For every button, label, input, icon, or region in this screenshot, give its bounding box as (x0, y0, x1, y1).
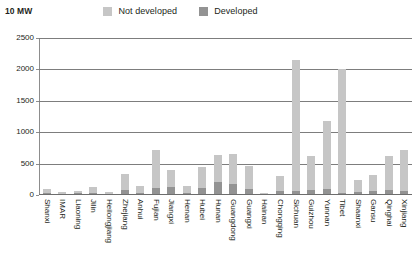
x-axis-tick-label: Henan (183, 199, 191, 223)
bar-slot (39, 38, 55, 195)
x-label-slot: Gansu (365, 197, 381, 275)
bar-stack[interactable] (198, 167, 206, 195)
bar-slot (272, 38, 288, 195)
x-axis-labels: ShanxiIMARLiaoningJilinHeilongjiangZheji… (39, 197, 412, 275)
bar-slot (179, 38, 195, 195)
x-axis-tick-label: Hainan (260, 199, 268, 224)
bar-segment-not-developed (152, 150, 160, 188)
bar-stack[interactable] (121, 174, 129, 195)
bar-slot (210, 38, 226, 195)
x-label-slot: Hainan (257, 197, 273, 275)
bar-slot (257, 38, 273, 195)
bar-slot (381, 38, 397, 195)
bar-segment-not-developed (276, 176, 284, 192)
bar-slot (241, 38, 257, 195)
y-axis-tick-label: 2000 (16, 65, 34, 73)
chart-legend: 10 MW Not developed Developed (0, 0, 419, 22)
bar-stack[interactable] (276, 176, 284, 195)
x-axis-tick-label: Yunnan (323, 199, 331, 226)
bar-slot (365, 38, 381, 195)
x-label-slot: Henan (179, 197, 195, 275)
bar-slot (334, 38, 350, 195)
bar-segment-not-developed (369, 175, 377, 191)
x-label-slot: Tibet (334, 197, 350, 275)
x-axis-tick-label: Heilongjiang (105, 199, 113, 243)
x-axis-tick-label: Qinghai (385, 199, 393, 227)
x-label-slot: Xinjiang (397, 197, 413, 275)
x-label-slot: Jiangxi (163, 197, 179, 275)
x-axis-tick-label: Shanxi (43, 199, 51, 223)
x-label-slot: Guangxi (241, 197, 257, 275)
bar-stack[interactable] (400, 150, 408, 195)
x-axis-tick-label: Gansu (369, 199, 377, 223)
legend-item-developed: Developed (199, 6, 257, 16)
y-axis-tick-label: 0 (30, 191, 34, 199)
bar-slot (397, 38, 413, 195)
x-axis-tick-label: Xinjiang (400, 199, 408, 227)
bar-slot (55, 38, 71, 195)
x-axis-line (39, 194, 412, 195)
bar-slot (226, 38, 242, 195)
bar-segment-not-developed (307, 156, 315, 190)
x-label-slot: Shanxi (39, 197, 55, 275)
x-label-slot: IMAR (55, 197, 71, 275)
bar-stack[interactable] (338, 69, 346, 195)
y-axis-tick (36, 195, 39, 196)
bar-slot (101, 38, 117, 195)
bar-slot (163, 38, 179, 195)
bar-segment-not-developed (198, 167, 206, 188)
x-label-slot: Hunan (210, 197, 226, 275)
bar-stack[interactable] (152, 150, 160, 195)
bar-segment-not-developed (385, 156, 393, 190)
x-axis-tick-label: Jilin (89, 199, 97, 213)
x-label-slot: Anhui (132, 197, 148, 275)
legend-label-not-developed: Not developed (118, 6, 177, 16)
legend-label-developed: Developed (214, 6, 257, 16)
x-axis-tick-label: Anhui (136, 199, 144, 219)
x-axis-tick-label: Hunan (214, 199, 222, 223)
bar-slot (148, 38, 164, 195)
bar-stack[interactable] (369, 175, 377, 195)
x-label-slot: Fujian (148, 197, 164, 275)
x-axis-tick-label: Guangdong (229, 199, 237, 241)
bar-stack[interactable] (292, 60, 300, 195)
x-label-slot: Shaanxi (350, 197, 366, 275)
legend-swatch-icon (103, 7, 112, 16)
y-axis-tick-label: 1500 (16, 97, 34, 105)
bar-segment-not-developed (338, 69, 346, 193)
x-label-slot: Qinghai (381, 197, 397, 275)
bar-stack[interactable] (323, 121, 331, 195)
bar-segment-not-developed (292, 60, 300, 191)
x-label-slot: Guangdong (226, 197, 242, 275)
bar-slot (288, 38, 304, 195)
bar-stack[interactable] (245, 166, 253, 195)
x-axis-tick-label: Zhejiang (121, 199, 129, 230)
bar-slot (117, 38, 133, 195)
bar-segment-not-developed (214, 155, 222, 182)
x-axis-tick-label: Tibet (338, 199, 346, 217)
x-axis-tick-label: Liaoning (74, 199, 82, 229)
bar-segment-not-developed (167, 170, 175, 188)
bar-segment-not-developed (229, 154, 237, 184)
bar-stack[interactable] (214, 155, 222, 195)
bar-stack[interactable] (229, 154, 237, 195)
y-axis-tick-label: 500 (21, 160, 34, 168)
x-label-slot: Liaoning (70, 197, 86, 275)
y-axis-tick-label: 2500 (16, 34, 34, 42)
x-axis-tick-label: Shaanxi (354, 199, 362, 228)
bar-slot (70, 38, 86, 195)
bar-stack[interactable] (385, 156, 393, 195)
bar-slot (303, 38, 319, 195)
bar-stack[interactable] (354, 180, 362, 195)
x-axis-tick-label: Guangxi (245, 199, 253, 229)
x-label-slot: Chongqing (272, 197, 288, 275)
bar-slot (132, 38, 148, 195)
bar-segment-not-developed (245, 166, 253, 189)
bar-stack[interactable] (307, 156, 315, 195)
x-label-slot: Hubei (194, 197, 210, 275)
bar-segment-not-developed (354, 180, 362, 192)
unit-label: 10 MW (5, 6, 32, 16)
bar-stack[interactable] (167, 170, 175, 195)
x-axis-tick-label: Fujian (152, 199, 160, 221)
bar-slot (86, 38, 102, 195)
